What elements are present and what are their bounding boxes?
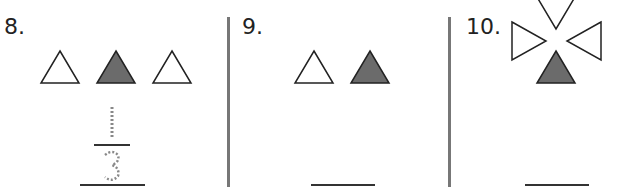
triangle-filled-icon xyxy=(96,50,136,84)
triangle-outline-icon xyxy=(294,50,334,84)
problem-9-number: 9. xyxy=(242,14,263,39)
problem-8-number: 8. xyxy=(4,14,25,39)
denominator-3-trace xyxy=(102,150,122,182)
triangle-filled-icon xyxy=(350,50,390,84)
divider xyxy=(227,17,230,187)
answer-line[interactable] xyxy=(525,184,589,186)
answer-line[interactable] xyxy=(311,184,375,186)
triangle-outline-icon xyxy=(40,50,80,84)
answer-line[interactable] xyxy=(80,184,145,186)
numerator-1-trace xyxy=(108,106,116,140)
fraction-bar xyxy=(94,144,130,146)
triangle-outline-icon xyxy=(152,50,192,84)
problem-10-number: 10. xyxy=(466,14,501,39)
triangle-filled-icon xyxy=(536,50,576,84)
divider xyxy=(448,17,451,187)
